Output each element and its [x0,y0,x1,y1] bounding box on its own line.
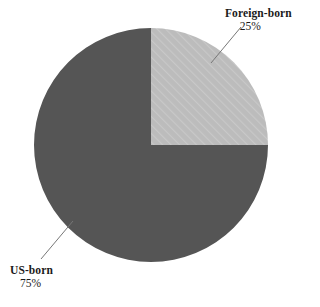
callout-foreign-born-label: Foreign-born [225,7,292,20]
callout-foreign-born: Foreign-born 25% [225,7,292,33]
callout-us-born: US-born 75% [10,264,53,290]
pie-chart-graphic [0,0,320,307]
pie-slice-foreign-born [151,28,268,145]
callout-foreign-born-value: 25% [225,20,292,33]
callout-us-born-label: US-born [10,264,53,277]
leader-line-us-born [41,221,73,259]
pie-chart-figure: Foreign-born 25% US-born 75% [0,0,320,307]
callout-us-born-value: 75% [10,277,53,290]
